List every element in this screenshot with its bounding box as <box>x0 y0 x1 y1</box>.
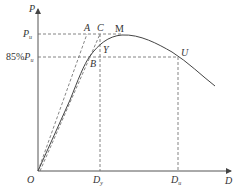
point-y-label: Y <box>103 45 109 55</box>
point-a-label: A <box>84 23 90 33</box>
du-label: Du <box>171 175 181 186</box>
secant-oa <box>38 34 87 171</box>
point-c-label: C <box>97 23 104 33</box>
y-axis-label: P <box>29 4 35 14</box>
point-m-label: M <box>115 24 124 34</box>
dy-label: Dy <box>93 175 103 186</box>
point-u-label: U <box>181 48 188 58</box>
p85-label: 85%Pu <box>6 52 33 63</box>
origin-label: O <box>27 175 34 185</box>
load-curve <box>38 35 215 171</box>
point-b-label: B <box>90 59 96 69</box>
load-displacement-diagram: P D O Pu 85%Pu Dy Du A C M Y B U <box>0 0 238 196</box>
x-axis-label: D <box>225 176 232 186</box>
pu-label: Pu <box>23 29 32 40</box>
